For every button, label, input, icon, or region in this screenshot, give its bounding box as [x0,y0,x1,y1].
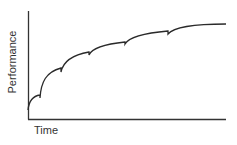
y-axis-label: Performance [6,28,18,96]
x-axis-label: Time [34,124,58,136]
performance-curve [28,24,226,110]
